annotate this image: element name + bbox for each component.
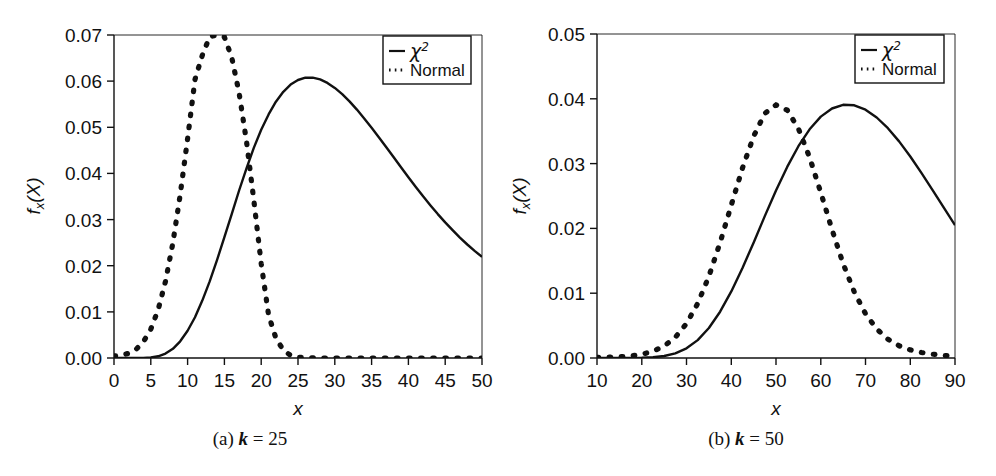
panel-b: 0.00 0.01 0.02 0.03 0.04 0.05 10 xyxy=(496,0,996,476)
caption-a: (a) k = 25 xyxy=(0,428,500,450)
y-tick-label: 0.07 xyxy=(65,25,102,46)
x-tick-label: 25 xyxy=(287,370,308,391)
x-tick-label: 30 xyxy=(324,370,345,391)
y-tick-label: 0.02 xyxy=(548,218,585,239)
x-tick-label: 45 xyxy=(435,370,456,391)
y-tick-label: 0.00 xyxy=(65,348,102,369)
plot-a: 0.00 0.01 0.02 0.03 0.04 0.05 0.06 0.07 xyxy=(0,0,500,425)
y-tick-label: 0.06 xyxy=(65,71,102,92)
x-tick-label: 40 xyxy=(398,370,419,391)
caption-a-var: k xyxy=(239,428,249,449)
legend-label-normal-a: Normal xyxy=(410,61,465,80)
caption-a-prefix: (a) xyxy=(213,428,234,449)
x-tick-label: 80 xyxy=(900,370,921,391)
svg-text:fx(X): fx(X) xyxy=(23,177,47,214)
caption-b: (b) k = 50 xyxy=(496,428,996,450)
x-tick-label: 40 xyxy=(721,370,742,391)
plot-b: 0.00 0.01 0.02 0.03 0.04 0.05 10 xyxy=(496,0,996,425)
x-tick-label: 70 xyxy=(855,370,876,391)
y-tick-labels-a: 0.00 0.01 0.02 0.03 0.04 0.05 0.06 0.07 xyxy=(65,25,102,369)
y-tick-label: 0.01 xyxy=(65,302,102,323)
figure-container: 0.00 0.01 0.02 0.03 0.04 0.05 0.06 0.07 xyxy=(0,0,996,476)
caption-b-eq: = xyxy=(749,428,760,449)
caption-b-value: 50 xyxy=(765,428,784,449)
y-tick-labels-b: 0.00 0.01 0.02 0.03 0.04 0.05 xyxy=(548,24,585,369)
panel-a: 0.00 0.01 0.02 0.03 0.04 0.05 0.06 0.07 xyxy=(0,0,500,476)
legend-b: χ2 Normal xyxy=(855,35,944,83)
caption-b-prefix: (b) xyxy=(708,428,730,449)
y-axis-title-tail: (X) xyxy=(23,177,44,202)
x-ticks-a xyxy=(114,358,482,365)
x-ticks-b xyxy=(597,358,955,365)
x-tick-label: 20 xyxy=(251,370,272,391)
y-ticks-a xyxy=(107,35,114,358)
y-tick-label: 0.05 xyxy=(548,24,585,45)
y-tick-label: 0.02 xyxy=(65,256,102,277)
x-tick-label: 20 xyxy=(631,370,652,391)
series-chi-squared-a xyxy=(114,78,482,358)
x-axis-title-a: x xyxy=(292,398,304,419)
y-tick-label: 0.05 xyxy=(65,117,102,138)
y-axis-title-tail: (X) xyxy=(509,177,530,202)
x-tick-label: 30 xyxy=(676,370,697,391)
x-tick-label: 5 xyxy=(146,370,157,391)
legend-a: χ2 Normal xyxy=(383,36,471,84)
x-tick-label: 90 xyxy=(944,370,965,391)
y-tick-label: 0.01 xyxy=(548,283,585,304)
caption-a-eq: = xyxy=(253,428,264,449)
x-tick-label: 60 xyxy=(810,370,831,391)
y-ticks-b xyxy=(590,34,597,358)
svg-text:fx(X): fx(X) xyxy=(509,177,533,214)
y-tick-label: 0.03 xyxy=(548,154,585,175)
x-tick-label: 10 xyxy=(586,370,607,391)
x-tick-label: 15 xyxy=(214,370,235,391)
x-tick-labels-b: 10 20 30 40 50 60 70 80 90 xyxy=(586,370,965,391)
y-axis-title-b: fx(X) xyxy=(509,177,533,214)
legend-label-normal-b: Normal xyxy=(882,60,937,79)
caption-a-value: 25 xyxy=(268,428,287,449)
x-tick-label: 0 xyxy=(109,370,120,391)
caption-b-var: k xyxy=(735,428,745,449)
x-tick-label: 35 xyxy=(361,370,382,391)
x-tick-label: 50 xyxy=(471,370,492,391)
x-tick-labels-a: 0 5 10 15 20 25 30 35 40 45 50 xyxy=(109,370,493,391)
y-tick-label: 0.03 xyxy=(65,210,102,231)
y-tick-label: 0.04 xyxy=(548,89,585,110)
series-chi-squared-b xyxy=(597,105,955,358)
x-tick-label: 10 xyxy=(177,370,198,391)
y-tick-label: 0.00 xyxy=(548,348,585,369)
x-axis-title-b: x xyxy=(770,398,782,419)
y-axis-title-a: fx(X) xyxy=(23,177,47,214)
y-tick-label: 0.04 xyxy=(65,163,102,184)
x-tick-label: 50 xyxy=(765,370,786,391)
